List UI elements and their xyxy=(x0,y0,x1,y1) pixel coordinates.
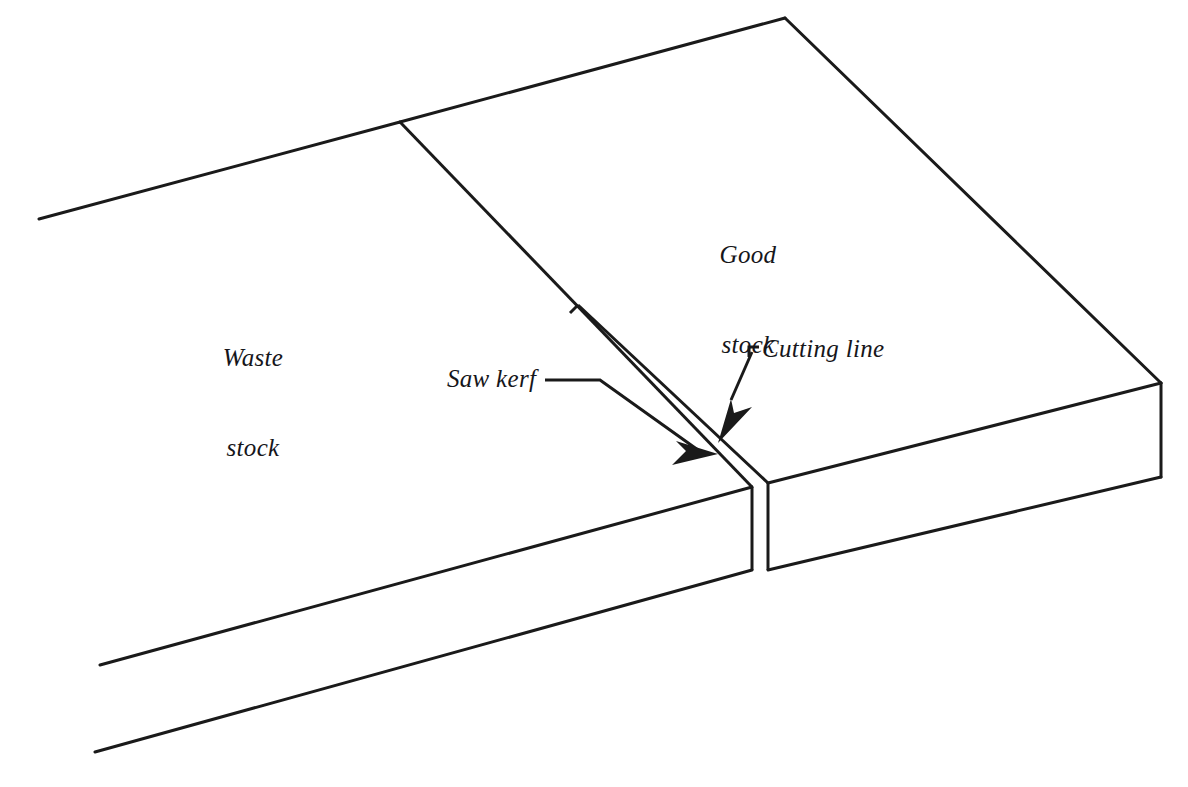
back-edge-left-line xyxy=(39,122,400,219)
label-saw-kerf: Saw kerf xyxy=(447,364,536,394)
diagram-canvas: Waste stock Good stock Saw kerf Cutting … xyxy=(0,0,1188,787)
back-edge-right-line xyxy=(400,18,785,122)
label-waste-stock-line1: Waste xyxy=(168,343,338,373)
label-good-stock: Good stock xyxy=(663,180,833,420)
front-bottom-edge-waste-line xyxy=(95,570,752,752)
label-waste-stock: Waste stock xyxy=(168,283,338,523)
waste-stock-front-face-group xyxy=(95,487,752,752)
right-top-edge-line xyxy=(785,18,1161,383)
kerf-slot-end-cap xyxy=(570,305,578,313)
label-good-stock-line1: Good xyxy=(663,240,833,270)
label-cutting-line: Cutting line xyxy=(762,334,884,364)
front-bottom-edge-good-line xyxy=(768,477,1161,570)
label-waste-stock-line2: stock xyxy=(168,433,338,463)
